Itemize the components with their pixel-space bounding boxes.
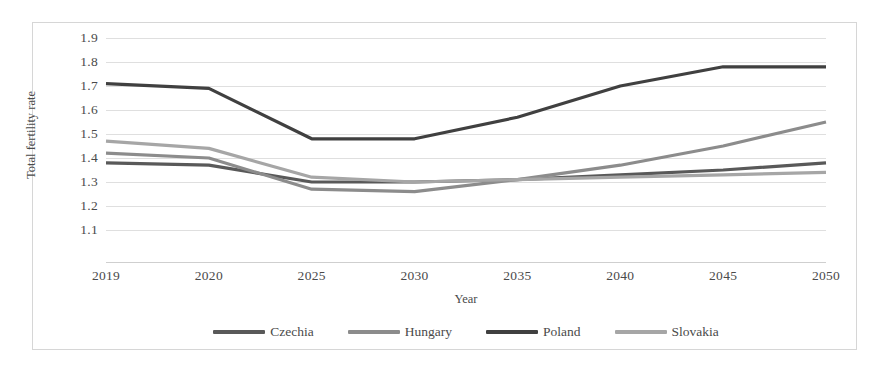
- legend-swatch-icon: [348, 330, 400, 334]
- plot-area: [106, 38, 826, 230]
- legend-item-hungary[interactable]: Hungary: [348, 324, 452, 340]
- x-axis-tick-label: 2050: [812, 268, 840, 284]
- x-axis-tick-labels: 20192020202520302035204020452050: [106, 268, 826, 290]
- x-axis-tick-label: 2019: [92, 268, 120, 284]
- x-axis-tick-label: 2035: [503, 268, 531, 284]
- y-axis-tick-label: 1.4: [80, 150, 98, 166]
- x-axis-tick-label: 2030: [400, 268, 428, 284]
- y-axis-tick-label: 1.9: [80, 30, 98, 46]
- legend-swatch-icon: [213, 330, 265, 334]
- x-axis-title: Year: [106, 292, 826, 307]
- x-axis-tick-label: 2025: [298, 268, 326, 284]
- x-axis-line: [106, 262, 826, 263]
- legend-item-slovakia[interactable]: Slovakia: [615, 324, 719, 340]
- y-axis-tick-label: 1.5: [80, 126, 98, 142]
- legend-label: Slovakia: [672, 324, 719, 340]
- legend-swatch-icon: [615, 330, 667, 334]
- y-axis-title-label: Total fertility rate: [24, 60, 39, 210]
- y-axis-tick-label: 1.6: [80, 102, 98, 118]
- series-line-poland: [106, 67, 826, 139]
- legend-item-czechia[interactable]: Czechia: [213, 324, 313, 340]
- y-axis-tick-label: 1.3: [80, 174, 98, 190]
- legend-swatch-icon: [486, 330, 538, 334]
- y-axis-tick-label: 1.2: [80, 198, 98, 214]
- series-line-czechia: [106, 163, 826, 182]
- series-lines: [106, 38, 826, 230]
- chart-legend: CzechiaHungaryPolandSlovakia: [106, 322, 826, 342]
- legend-label: Hungary: [405, 324, 452, 340]
- y-axis-tick-label: 1.8: [80, 54, 98, 70]
- chart-figure: Total fertility rate 1.91.81.71.61.51.41…: [0, 0, 887, 370]
- legend-label: Poland: [543, 324, 581, 340]
- legend-item-poland[interactable]: Poland: [486, 324, 581, 340]
- y-axis-tick-labels: 1.91.81.71.61.51.41.31.21.1: [56, 38, 98, 230]
- y-axis-tick-label: 1.7: [80, 78, 98, 94]
- y-axis-title: Total fertility rate: [24, 0, 42, 60]
- x-axis-tick-label: 2040: [606, 268, 634, 284]
- x-axis-tick-label: 2045: [709, 268, 737, 284]
- legend-label: Czechia: [270, 324, 313, 340]
- y-axis-tick-label: 1.1: [80, 222, 98, 238]
- x-axis-tick-label: 2020: [195, 268, 223, 284]
